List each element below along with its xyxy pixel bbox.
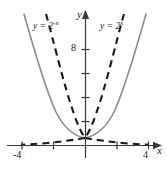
x-tick-label-negative-4: -4 [13, 150, 21, 160]
x-axis-label: x [157, 145, 162, 156]
x-tick-label-4: 4 [143, 150, 148, 160]
curve-annotation-right-exponent: x [120, 19, 123, 27]
curve-annotation-left-base: y = 2 [33, 21, 53, 31]
exponential-graph-figure: y x 8 -4 4 y = 2-x y = 2x [0, 0, 167, 170]
y-axis-label: y [77, 9, 82, 20]
dashed-curve-positive-exponent-branch [85, 14, 124, 138]
dashed-curve-negative-exponent-branch [46, 14, 85, 138]
curve-annotation-two-to-x: y = 2x [100, 22, 123, 32]
plot-canvas [0, 0, 167, 170]
curve-annotation-two-to-negative-x: y = 2-x [33, 22, 59, 32]
curve-annotation-right-base: y = 2 [100, 21, 120, 31]
curve-annotation-left-exponent: -x [53, 19, 58, 27]
y-axis-arrowhead [82, 10, 89, 19]
y-tick-label-8: 8 [71, 43, 76, 53]
